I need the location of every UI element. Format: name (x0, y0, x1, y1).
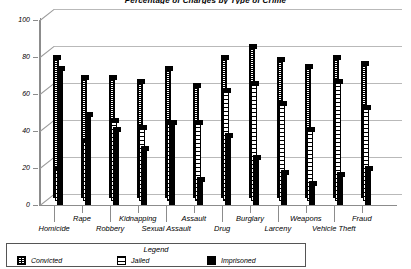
bar-top-cap (113, 127, 121, 132)
y-axis-tick-mark (33, 57, 38, 58)
y-axis-line (39, 20, 40, 205)
x-axis-tick-mark (82, 206, 83, 213)
bar-top-cap (221, 55, 229, 60)
bar-top-cap (251, 81, 259, 86)
legend-swatch-imprisoned (207, 256, 216, 265)
y-axis-tick-mark (33, 205, 38, 206)
bar-top-cap (139, 125, 147, 130)
bar-imprisoned-kidnapping (141, 148, 147, 205)
y-axis-tick-mark (33, 20, 38, 21)
x-axis-tick-mark (334, 206, 335, 222)
bar-imprisoned-robbery (113, 129, 119, 205)
bar-top-cap (365, 166, 373, 171)
bar-top-cap (307, 127, 315, 132)
x-axis-label-rape: Rape (73, 214, 91, 223)
x-axis-label-larceny: Larceny (265, 224, 292, 233)
bar-top-cap (85, 112, 93, 117)
legend-label-convicted: Convicted (31, 257, 62, 264)
bar-top-cap (309, 181, 317, 186)
y-axis-tick-label: 40 (4, 127, 30, 134)
x-axis-label-weapons: Weapons (290, 214, 322, 223)
x-axis-tick-mark (250, 206, 251, 213)
bar-imprisoned-fraud (365, 168, 371, 205)
x-axis-baseline (39, 205, 397, 206)
chart-title: Percentage of Charges by Type of Crime (0, 0, 411, 4)
gridline (54, 83, 402, 84)
bar-top-cap (195, 120, 203, 125)
bar-top-cap (109, 75, 117, 80)
x-axis-label-fraud: Fraud (352, 214, 372, 223)
x-axis-label-kidnapping: Kidnapping (119, 214, 157, 223)
bar-top-cap (363, 105, 371, 110)
bar-top-cap (53, 55, 61, 60)
y-axis-tick-label: 20 (4, 164, 30, 171)
x-axis-label-assault: Assault (182, 214, 207, 223)
x-axis-tick-mark (110, 206, 111, 222)
x-axis-tick-mark (278, 206, 279, 222)
bar-imprisoned-homicide (57, 68, 63, 205)
chart-container: Percentage of Charges by Type of Crime L… (0, 0, 411, 269)
bar-top-cap (249, 44, 257, 49)
bar-imprisoned-weapons (309, 183, 315, 205)
bar-top-cap (193, 83, 201, 88)
bar-top-cap (277, 57, 285, 62)
x-axis-label-homicide: Homicide (39, 224, 70, 233)
bar-top-cap (165, 66, 173, 71)
bar-imprisoned-vehicle-theft (337, 174, 343, 205)
bar-top-cap (335, 79, 343, 84)
x-axis-label-drug: Drug (214, 224, 230, 233)
x-axis-tick-mark (194, 206, 195, 213)
bar-top-cap (137, 79, 145, 84)
y-axis-tick-label: 100 (4, 16, 30, 23)
x-axis-label-burglary: Burglary (236, 214, 264, 223)
x-axis-tick-mark (222, 206, 223, 222)
bar-top-cap (169, 120, 177, 125)
bar-imprisoned-sexual-assault (169, 122, 175, 205)
gridline (54, 9, 402, 10)
gridline (54, 46, 402, 47)
bar-top-cap (337, 172, 345, 177)
bar-imprisoned-burglary (253, 157, 259, 205)
bar-top-cap (111, 118, 119, 123)
bar-top-cap (281, 170, 289, 175)
bar-top-cap (81, 75, 89, 80)
x-axis-label-robbery: Robbery (96, 224, 124, 233)
x-axis-tick-mark (54, 206, 55, 222)
bar-top-cap (225, 133, 233, 138)
x-axis-tick-mark (306, 206, 307, 213)
y-axis-tick-label: 0 (4, 201, 30, 208)
bar-imprisoned-assault (197, 179, 203, 205)
bar-top-cap (141, 146, 149, 151)
x-axis-tick-mark (138, 206, 139, 213)
chart-legend: Legend ConvictedJailedImprisoned (6, 243, 306, 267)
y-axis-tick-mark (33, 168, 38, 169)
bar-top-cap (279, 101, 287, 106)
bar-imprisoned-larceny (281, 172, 287, 205)
x-axis-label-sexual-assault: Sexual Assault (142, 224, 191, 233)
bar-top-cap (223, 88, 231, 93)
y-axis-tick-label: 60 (4, 90, 30, 97)
x-axis-label-vehicle-theft: Vehicle Theft (312, 224, 356, 233)
bar-top-cap (333, 55, 341, 60)
bar-top-cap (253, 155, 261, 160)
legend-swatch-jailed (117, 256, 126, 265)
legend-title: Legend (7, 245, 305, 254)
y-axis-tick-mark (33, 131, 38, 132)
y-axis-tick-label: 80 (4, 53, 30, 60)
bar-top-cap (57, 66, 65, 71)
bar-top-cap (305, 64, 313, 69)
bar-top-cap (361, 61, 369, 66)
legend-swatch-convicted (17, 256, 26, 265)
legend-label-imprisoned: Imprisoned (221, 257, 256, 264)
bar-top-cap (197, 177, 205, 182)
legend-label-jailed: Jailed (131, 257, 149, 264)
x-axis-tick-mark (166, 206, 167, 222)
y-axis-tick-mark (33, 94, 38, 95)
x-axis-tick-mark (362, 206, 363, 213)
bar-imprisoned-drug (225, 135, 231, 205)
bar-imprisoned-rape (85, 114, 91, 205)
